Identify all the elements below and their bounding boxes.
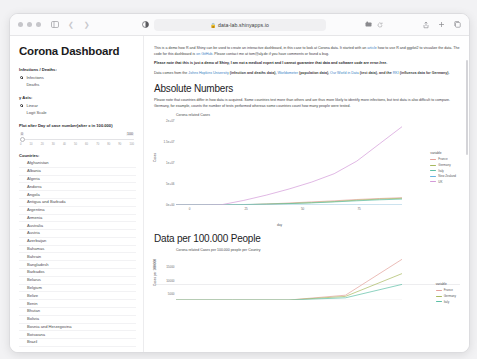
legend-title: variable: [436, 282, 456, 286]
chart-svg: [176, 256, 402, 300]
github-link[interactable]: on GitHub: [196, 52, 212, 56]
close-window-button[interactable]: [18, 22, 23, 27]
reload-icon[interactable]: [377, 22, 383, 28]
radio-option-deaths[interactable]: Deaths: [20, 82, 136, 87]
country-list-item[interactable]: Bhutan: [19, 308, 136, 316]
disclaimer-paragraph: Please note that this is just a demo of …: [154, 61, 460, 67]
reader-mode-icon[interactable]: [142, 21, 149, 28]
slider-ticks: 0 10 20 30 40 50 60 70 80 90 100: [20, 143, 134, 146]
legend-label: Germany: [438, 163, 450, 167]
browser-window: ❮ ❯ 🔒 data-lab.shinyapps.io: [9, 13, 470, 353]
country-list-item[interactable]: Argentina: [19, 207, 136, 215]
country-list-item[interactable]: Belgium: [19, 285, 136, 293]
country-list-item[interactable]: Bolivia: [19, 316, 136, 324]
country-list-item[interactable]: Andorra: [19, 183, 136, 191]
country-list-item[interactable]: Benin: [19, 300, 136, 308]
extension-icon[interactable]: [365, 21, 372, 28]
chart-series-line: [176, 285, 402, 301]
tab-overview-icon[interactable]: [454, 21, 461, 28]
country-list-item[interactable]: Albania: [19, 168, 136, 176]
country-list-item[interactable]: Brazil: [19, 339, 136, 347]
slider-track[interactable]: [20, 139, 134, 141]
legend-swatch: [436, 290, 442, 291]
slider-handle[interactable]: [20, 137, 25, 142]
chart-absolute-numbers[interactable]: Corona related Cases Cases 0e+005e+061e+…: [154, 113, 460, 225]
country-list-item[interactable]: Afghanistan: [19, 160, 136, 168]
chart-series-line: [176, 274, 402, 300]
chart-y-tick: 2e+07: [166, 119, 174, 123]
chart-y-tick: 5e+06: [166, 182, 174, 186]
legend-item: Germany: [436, 294, 456, 298]
country-select-list[interactable]: AfghanistanAlbaniaAlgeriaAndorraAngolaAn…: [19, 160, 136, 347]
radio-icon[interactable]: [20, 76, 23, 79]
legend-swatch: [430, 176, 436, 177]
legend-label: France: [444, 288, 453, 292]
chart-x-tick: 50: [301, 207, 304, 211]
chart-y-tick: 10000: [166, 279, 174, 283]
legend-item: Italy: [430, 169, 456, 173]
chart-plot-area: 0e+005e+061e+071.5e+072e+070255075: [176, 121, 402, 205]
slider-tick: 70: [96, 143, 99, 146]
country-list-item[interactable]: Australia: [19, 222, 136, 230]
navigation-buttons[interactable]: ❮ ❯: [68, 21, 98, 29]
chart-x-axis-label: day: [277, 223, 282, 227]
slider-tick: 20: [41, 143, 44, 146]
radio-icon[interactable]: [20, 104, 23, 107]
chart-x-tick: 25: [244, 207, 247, 211]
legend-swatch: [436, 301, 442, 302]
legend-label: Italy: [444, 300, 450, 304]
countries-label: Countries:: [19, 153, 136, 158]
forward-chevron-icon[interactable]: ❯: [84, 21, 90, 28]
country-list-item[interactable]: Bosnia and Herzegovina: [19, 324, 136, 332]
day-slider-control[interactable]: Plot after Day of case number(after x in…: [19, 123, 136, 148]
country-list-item[interactable]: Bahamas: [19, 246, 136, 254]
country-list-item[interactable]: Angola: [19, 191, 136, 199]
window-controls[interactable]: [18, 22, 41, 27]
sources-paragraph: Data comes from the Johns Hopkins Univer…: [154, 71, 460, 77]
country-list-item[interactable]: Bangladesh: [19, 261, 136, 269]
new-tab-icon[interactable]: [438, 21, 445, 28]
radio-option-linear[interactable]: Linear: [20, 103, 136, 108]
source-text-5: (influenza data for Germany).: [399, 71, 450, 75]
chart-y-axis-label: Cases: [153, 153, 157, 162]
legend-label: New Zealand: [438, 174, 456, 178]
browser-toolbar: ❮ ❯ 🔒 data-lab.shinyapps.io: [10, 14, 469, 36]
chart-per-100000[interactable]: Corona related Cases per 100.000 people …: [154, 248, 460, 308]
maximize-window-button[interactable]: [36, 22, 41, 27]
chart-y-tick: 15000: [166, 265, 174, 269]
country-list-item[interactable]: Armenia: [19, 215, 136, 223]
legend-label: Italy: [438, 169, 444, 173]
dashboard-main: This is a demo how R and Shiny can be us…: [144, 36, 469, 352]
legend-item: New Zealand: [430, 174, 456, 178]
country-list-item[interactable]: Botswana: [19, 331, 136, 339]
chart-legend: variable FranceGermanyItaly: [436, 282, 456, 305]
article-link[interactable]: article: [367, 46, 377, 50]
section-title-per-100000: Data per 100.000 People: [154, 233, 460, 244]
page-scrollbar[interactable]: [466, 60, 468, 155]
slider-tick: 40: [63, 143, 66, 146]
owid-link[interactable]: Our World in Data: [330, 71, 359, 75]
radio-option-logit-scale[interactable]: Logit Scale: [20, 110, 136, 115]
back-chevron-icon[interactable]: ❮: [68, 21, 74, 28]
minimize-window-button[interactable]: [27, 22, 32, 27]
sidebar-toggle-icon[interactable]: [51, 21, 59, 28]
country-list-item[interactable]: Antigua and Barbuda: [19, 199, 136, 207]
country-list-item[interactable]: Austria: [19, 230, 136, 238]
chart-y-tick: 1e+07: [166, 161, 174, 165]
country-list-item[interactable]: Azerbaijan: [19, 238, 136, 246]
address-bar[interactable]: 🔒 data-lab.shinyapps.io: [154, 19, 326, 31]
slider-tick: 50: [74, 143, 77, 146]
jhu-link[interactable]: Johns Hopkins University: [188, 71, 228, 75]
worldometer-link[interactable]: Worldometer: [277, 71, 298, 75]
chart-x-tick: 75: [357, 207, 360, 211]
radio-option-infections[interactable]: Infections: [20, 75, 136, 80]
country-list-item[interactable]: Barbados: [19, 269, 136, 277]
radio-label: Logit Scale: [26, 110, 46, 115]
country-list-item[interactable]: Algeria: [19, 176, 136, 184]
legend-swatch: [430, 165, 436, 166]
country-list-item[interactable]: Belarus: [19, 277, 136, 285]
country-list-item[interactable]: Belize: [19, 292, 136, 300]
country-list-item[interactable]: Bahrain: [19, 253, 136, 261]
share-icon[interactable]: [423, 21, 429, 29]
legend-label: UK: [438, 180, 442, 184]
